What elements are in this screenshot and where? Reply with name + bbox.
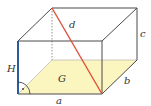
label-H: H: [6, 63, 16, 74]
cuboid-diagram: a b c d G H: [0, 0, 151, 106]
label-a: a: [56, 95, 62, 106]
right-angle-dot: [22, 88, 24, 90]
label-b: b: [124, 75, 130, 86]
edge-top-right: [102, 8, 137, 41]
label-d: d: [69, 19, 75, 30]
label-c: c: [140, 28, 146, 39]
label-G: G: [58, 73, 66, 84]
edge-top-left: [18, 8, 52, 41]
